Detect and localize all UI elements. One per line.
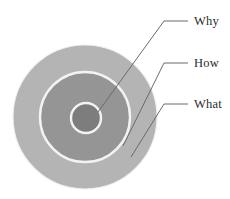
label-why: Why: [194, 14, 219, 28]
label-what: What: [194, 97, 222, 111]
label-how: How: [194, 56, 219, 70]
ring-why-circle[interactable]: [71, 103, 101, 133]
diagram-canvas: Why How What: [0, 0, 230, 199]
golden-circle-diagram: Why How What: [0, 0, 230, 199]
